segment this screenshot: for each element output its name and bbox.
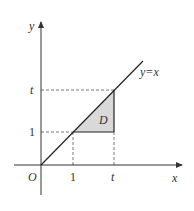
y-axis-label: y bbox=[28, 19, 35, 33]
y-tick-t: t bbox=[30, 83, 34, 97]
x-tick-1: 1 bbox=[70, 170, 76, 184]
x-axis-label: x bbox=[171, 171, 178, 185]
origin-label: O bbox=[28, 170, 37, 184]
coordinate-diagram: y x O 1 t 1 t y=x D bbox=[0, 0, 194, 211]
y-tick-1: 1 bbox=[29, 125, 35, 139]
x-tick-t: t bbox=[111, 170, 115, 184]
line-y-equals-x bbox=[41, 61, 143, 165]
line-label: y=x bbox=[139, 65, 159, 79]
region-label: D bbox=[98, 113, 108, 127]
